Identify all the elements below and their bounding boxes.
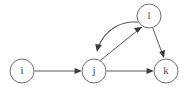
node-i-label: i — [20, 64, 23, 76]
node-l-label: l — [147, 9, 150, 21]
node-j-label: j — [91, 64, 95, 76]
edge-j-to-k-arrowhead — [147, 68, 154, 74]
edge-j-to-k — [107, 68, 154, 74]
edge-l-to-k-line — [153, 28, 163, 55]
edge-i-to-j — [35, 68, 82, 74]
node-k[interactable]: k — [154, 59, 178, 83]
node-l[interactable]: l — [137, 4, 161, 28]
graph-diagram: i j l k — [0, 0, 189, 94]
edge-l-to-k — [153, 28, 165, 59]
edge-l-to-k-arrowhead — [159, 50, 165, 58]
edge-i-to-j-arrowhead — [75, 68, 82, 74]
node-k-label: k — [163, 64, 169, 76]
edge-j-to-l — [101, 27, 143, 61]
node-i[interactable]: i — [10, 59, 34, 83]
edge-l-to-j-arrowhead — [95, 44, 102, 52]
node-j[interactable]: j — [82, 59, 106, 83]
graph-canvas: i j l k — [0, 0, 189, 94]
